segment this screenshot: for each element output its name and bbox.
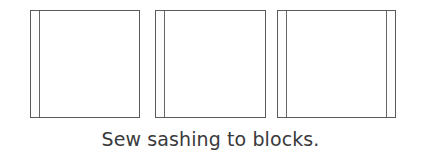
figure-caption: Sew sashing to blocks. <box>0 126 421 152</box>
sashing-strip-left-block-2 <box>156 11 165 117</box>
sashing-strip-left-block-1 <box>31 11 40 117</box>
figure-root: Sew sashing to blocks. <box>0 0 421 158</box>
sashing-strip-left-block-3 <box>278 11 287 117</box>
quilt-blocks-diagram <box>0 0 421 124</box>
quilt-block-2 <box>155 10 266 118</box>
quilt-block-1 <box>30 10 140 118</box>
quilt-block-3 <box>277 10 396 118</box>
sashing-strip-right-block-3 <box>386 11 395 117</box>
